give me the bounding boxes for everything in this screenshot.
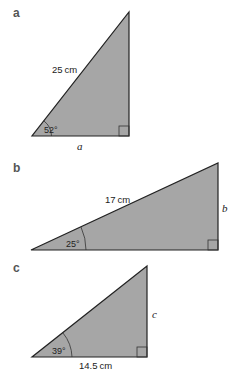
triangle-b-shape	[31, 163, 218, 250]
unknown-side-a: a	[77, 140, 83, 152]
triangle-a-shape	[32, 12, 129, 136]
part-label-c: c	[13, 261, 20, 275]
part-label-a: a	[13, 6, 20, 20]
triangle-diagram: a 52° 25 cm a b 25° 17 cm b c 39° 14.5 c…	[0, 0, 228, 370]
adjacent-label-c: 14.5 cm	[79, 360, 112, 370]
triangle-b: b 25° 17 cm b	[13, 161, 228, 250]
hypotenuse-label-b: 17 cm	[105, 194, 130, 205]
hypotenuse-label-a: 25 cm	[52, 64, 77, 75]
unknown-side-c: c	[152, 308, 157, 320]
angle-label-a: 52°	[44, 125, 58, 135]
triangle-a: a 52° 25 cm a	[13, 6, 129, 152]
angle-label-c: 39°	[52, 346, 66, 356]
unknown-side-b: b	[222, 202, 228, 214]
triangle-c-shape	[32, 266, 147, 357]
part-label-b: b	[13, 161, 20, 175]
triangle-c: c 39° 14.5 cm c	[13, 261, 157, 370]
angle-label-b: 25°	[66, 239, 80, 249]
